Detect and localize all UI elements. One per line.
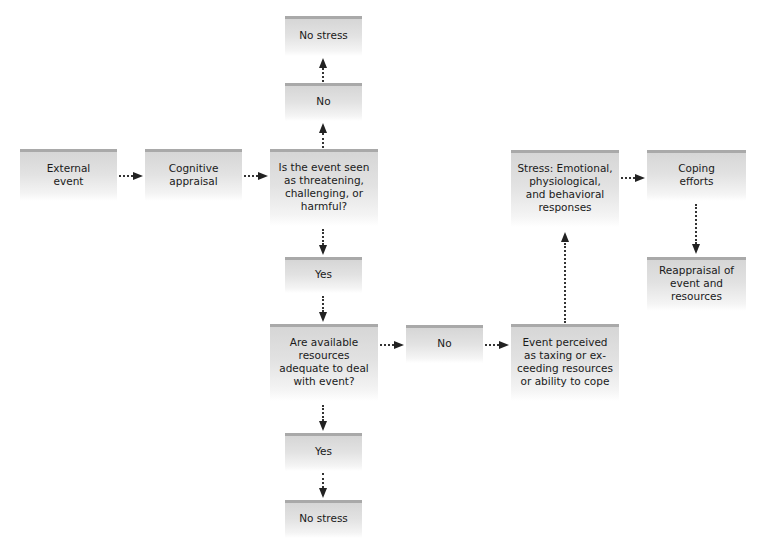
node-label: No stress [299, 29, 348, 42]
node-threat-question: Is the event seen as threatening, challe… [270, 149, 378, 226]
node-label: Cognitive appraisal [169, 162, 219, 188]
node-reappraisal: Reappraisal of event and resources [647, 257, 746, 311]
node-external-event: External event [20, 149, 117, 201]
node-label: Yes [315, 445, 332, 458]
node-label: No [316, 95, 330, 108]
node-no-top: No [285, 83, 362, 121]
node-no-middle: No [406, 325, 483, 363]
node-coping-efforts: Coping efforts [647, 150, 746, 201]
node-yes-1: Yes [285, 257, 362, 293]
node-event-perceived: Event perceived as taxing or ex- ceeding… [511, 324, 619, 401]
node-label: No [437, 337, 451, 350]
node-cognitive-appraisal: Cognitive appraisal [145, 149, 242, 201]
node-resources-question: Are available resources adequate to deal… [270, 324, 378, 401]
node-no-stress-bottom: No stress [285, 500, 362, 538]
node-label: Are available resources adequate to deal… [279, 336, 369, 388]
node-label: Stress: Emotional, physiological, and be… [517, 162, 612, 214]
node-label: Event perceived as taxing or ex- ceeding… [517, 336, 613, 388]
node-label: No stress [299, 512, 348, 525]
node-no-stress-top: No stress [285, 16, 362, 56]
node-label: Is the event seen as threatening, challe… [279, 161, 370, 213]
node-label: Coping efforts [678, 162, 715, 188]
node-label: Yes [315, 268, 332, 281]
node-label: Reappraisal of event and resources [659, 264, 734, 303]
node-yes-2: Yes [285, 433, 362, 471]
node-label: External event [47, 162, 91, 188]
node-stress-responses: Stress: Emotional, physiological, and be… [511, 150, 619, 227]
